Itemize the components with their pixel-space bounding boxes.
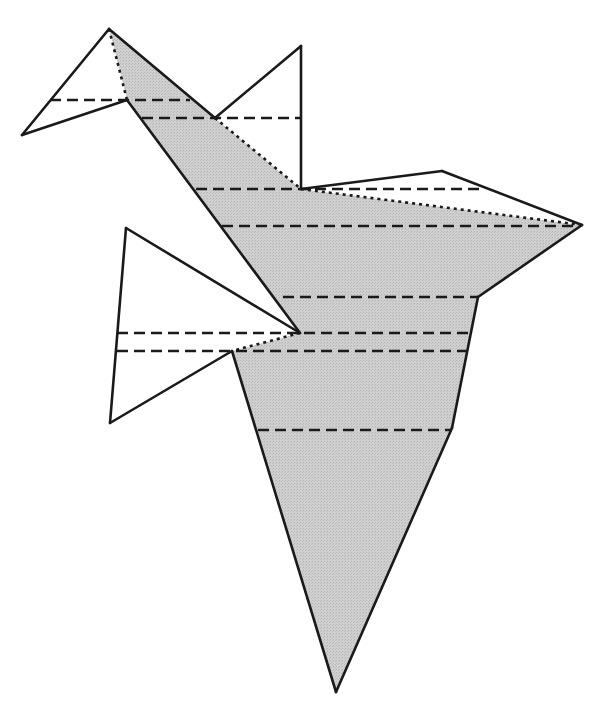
folding-diagram xyxy=(0,0,609,718)
head-flap xyxy=(22,29,127,135)
